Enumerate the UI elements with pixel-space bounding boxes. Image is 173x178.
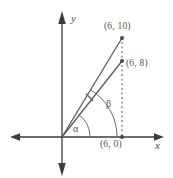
y-axis-arrow-up-icon [58, 11, 66, 24]
x-axis-label: x [155, 140, 160, 151]
figure-canvas [0, 0, 173, 178]
point-marker-6-10 [120, 36, 124, 40]
angle-arc-alpha [79, 114, 90, 137]
ray-to-point-6-8 [62, 61, 122, 137]
y-axis [58, 11, 66, 176]
ray-to-point-6-10 [62, 38, 122, 137]
y-axis-label: y [71, 13, 76, 24]
ray-hatch-mark [86, 94, 93, 102]
angle-label-alpha: α [73, 124, 78, 134]
x-axis-arrow-left-icon [10, 133, 20, 141]
x-axis [10, 133, 164, 141]
point-label-6-10: (6, 10) [104, 22, 131, 32]
angle-label-beta: β [106, 99, 111, 109]
geometry-figure: (6, 10) (6, 8) (6, 0) y x α β [0, 0, 173, 178]
point-marker-6-8 [120, 59, 124, 63]
point-label-6-8: (6, 8) [126, 59, 148, 69]
y-axis-arrow-down-icon [58, 163, 66, 176]
point-label-6-0: (6, 0) [100, 140, 122, 150]
